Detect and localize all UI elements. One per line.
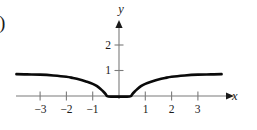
y-axis-arrow-icon — [115, 20, 122, 28]
y-tick-label-2: 2 — [95, 39, 111, 51]
x-tick-label-neg3: −3 — [30, 103, 51, 115]
x-tick-label-neg2: −2 — [56, 103, 77, 115]
y-axis-label: y — [113, 2, 129, 17]
x-tick-label-1: 1 — [138, 103, 153, 115]
x-tick-label-2: 2 — [164, 103, 179, 115]
x-tick-label-3: 3 — [190, 103, 205, 115]
y-tick-label-1: 1 — [95, 64, 111, 76]
figure-container: ) y x 2 1 −3 −2 −1 1 2 3 — [0, 0, 257, 130]
panel-label: ) — [0, 10, 13, 36]
x-tick-label-neg1: −1 — [82, 103, 103, 115]
x-axis-label: x — [232, 89, 248, 104]
